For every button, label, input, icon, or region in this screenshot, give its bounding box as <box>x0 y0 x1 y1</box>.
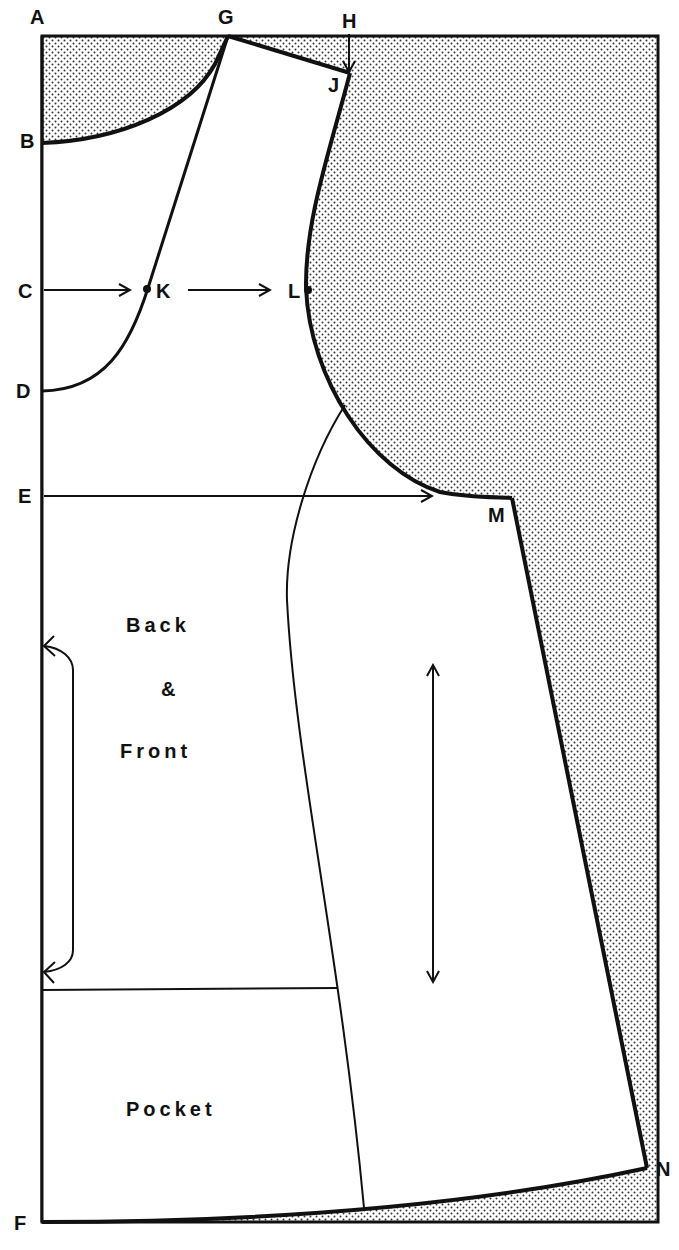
pattern-diagram: A B C D E F G H J K L M N Back & Front P… <box>0 0 679 1250</box>
piece-label-pocket: Pocket <box>126 1098 216 1120</box>
point-k-dot <box>143 285 151 293</box>
label-e: E <box>18 485 31 507</box>
point-l-dot <box>304 286 312 294</box>
label-d: D <box>16 380 30 402</box>
label-n: N <box>656 1158 670 1180</box>
label-c: C <box>18 280 32 302</box>
label-l: L <box>288 280 300 302</box>
piece-label-ampersand: & <box>161 678 179 700</box>
label-k: K <box>156 280 171 302</box>
piece-label-back: Back <box>126 614 190 636</box>
label-f: F <box>14 1212 26 1234</box>
label-m: M <box>488 504 505 526</box>
label-b: B <box>20 130 34 152</box>
label-a: A <box>30 6 44 28</box>
label-g: G <box>218 6 234 28</box>
label-j: J <box>328 74 339 96</box>
piece-label-front: Front <box>120 740 191 762</box>
label-h: H <box>342 10 356 32</box>
